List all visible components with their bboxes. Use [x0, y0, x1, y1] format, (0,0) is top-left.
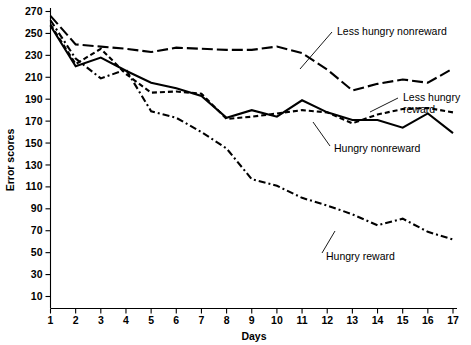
y-tick-label-250: 250 — [25, 27, 43, 39]
x-tick-label-6: 6 — [173, 314, 179, 326]
x-tick-label-15: 15 — [397, 314, 409, 326]
y-tick-label-210: 210 — [25, 71, 43, 83]
x-tick-label-16: 16 — [422, 314, 434, 326]
y-tick-label-10: 10 — [31, 290, 43, 302]
x-tick-label-14: 14 — [372, 314, 384, 326]
y-tick-label-270: 270 — [25, 5, 43, 17]
x-axis-title: Days — [241, 330, 266, 342]
x-tick-label-17: 17 — [447, 314, 459, 326]
chart-container: 1030507090110130150170190210230250270 12… — [0, 0, 471, 345]
y-tick-label-30: 30 — [31, 268, 43, 280]
x-tick-label-4: 4 — [123, 314, 129, 326]
x-axis-ticks — [51, 309, 454, 314]
y-axis-tick-labels: 1030507090110130150170190210230250270 — [25, 5, 43, 302]
axis-group — [51, 8, 458, 309]
annotation-hungry-reward: Hungry reward — [326, 250, 395, 262]
series-line-hungry-nonreward — [51, 26, 454, 133]
data-series-group — [51, 16, 454, 240]
x-tick-label-11: 11 — [297, 314, 308, 326]
annotation-hungry-nonreward: Hungry nonreward — [334, 142, 421, 154]
y-tick-label-190: 190 — [25, 93, 43, 105]
series-line-less-hungry-reward — [51, 25, 454, 124]
x-tick-label-1: 1 — [48, 314, 54, 326]
y-tick-label-50: 50 — [31, 246, 43, 258]
leader-less-hungry-nonreward — [300, 32, 332, 69]
x-tick-label-7: 7 — [199, 314, 205, 326]
y-tick-label-70: 70 — [31, 224, 43, 236]
y-tick-label-110: 110 — [26, 180, 43, 192]
x-tick-label-13: 13 — [347, 314, 359, 326]
x-tick-label-8: 8 — [224, 314, 230, 326]
y-tick-label-130: 130 — [25, 159, 43, 171]
annotation-less-hungry-reward-line1: Less hungry — [403, 91, 461, 103]
series-line-hungry-reward — [51, 20, 454, 239]
y-tick-label-90: 90 — [31, 202, 43, 214]
x-tick-label-3: 3 — [98, 314, 104, 326]
annotation-less-hungry-nonreward: Less hungry nonreward — [337, 25, 447, 37]
annotation-less-hungry-reward-line2: reward — [403, 103, 435, 115]
error-scores-line-chart: 1030507090110130150170190210230250270 12… — [0, 0, 471, 345]
x-tick-label-10: 10 — [271, 314, 283, 326]
y-tick-label-150: 150 — [25, 137, 43, 149]
x-tick-label-2: 2 — [73, 314, 79, 326]
y-axis-ticks — [46, 12, 51, 297]
y-axis-title: Error scores — [4, 129, 16, 192]
leader-hungry-nonreward — [313, 122, 330, 146]
y-tick-label-170: 170 — [25, 115, 43, 127]
x-tick-label-12: 12 — [321, 314, 333, 326]
y-tick-label-230: 230 — [25, 49, 43, 61]
x-axis-tick-labels: 1234567891011121314151617 — [48, 314, 459, 326]
leader-less-hungry-reward — [370, 98, 398, 112]
x-tick-label-9: 9 — [249, 314, 255, 326]
x-tick-label-5: 5 — [148, 314, 154, 326]
